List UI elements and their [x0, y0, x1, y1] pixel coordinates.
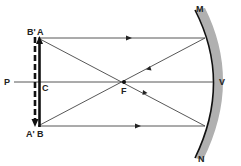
- arrow-right-icon: [126, 36, 132, 41]
- label-A: A: [37, 27, 44, 37]
- label-F: F: [121, 86, 127, 96]
- ray-diagram: B' A P C A' B F V M N: [0, 0, 241, 166]
- arrow-right-icon: [135, 124, 141, 129]
- label-C: C: [42, 83, 49, 93]
- focal-point: [122, 80, 126, 84]
- label-M: M: [196, 4, 204, 14]
- label-V: V: [219, 77, 225, 87]
- label-B: B: [37, 129, 44, 139]
- label-B-prime: B': [27, 27, 36, 37]
- image-arrowhead-down-icon: [32, 119, 39, 127]
- label-A-prime: A': [26, 129, 35, 139]
- label-N: N: [198, 154, 205, 164]
- label-P: P: [4, 77, 10, 87]
